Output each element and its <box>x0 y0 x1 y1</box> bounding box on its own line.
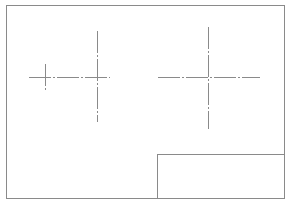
center-marks-group <box>29 27 260 129</box>
center-mark-left-large <box>29 31 110 122</box>
drawing-canvas <box>0 0 290 204</box>
center-mark-right <box>158 27 260 129</box>
title-block <box>158 155 285 199</box>
drawing-sheet <box>0 0 290 204</box>
sheet-border <box>7 6 285 199</box>
